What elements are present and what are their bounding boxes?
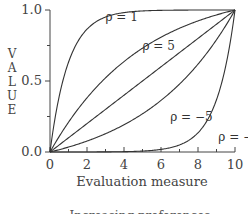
curves: [50, 10, 235, 152]
series-label: ρ = 1: [106, 10, 138, 24]
y-tick-label: 1.0: [21, 2, 42, 17]
y-axis-title-letter: L: [8, 75, 16, 89]
x-tick-label: 2: [83, 157, 91, 172]
y-axis-title-letter: V: [7, 47, 17, 61]
x-tick-label: 8: [194, 157, 202, 172]
y-axis-title: VALUE: [7, 47, 17, 117]
series-label: ρ = −5: [170, 110, 212, 124]
footer-note: Increasing preferences: [69, 209, 210, 214]
y-axis-title-letter: U: [7, 89, 17, 103]
y-axis-title-letter: A: [7, 61, 17, 75]
series-label: ρ = 5: [143, 39, 175, 53]
y-axis-title-letter: E: [8, 103, 17, 117]
x-axis-title: Evaluation measure: [76, 174, 208, 189]
series-label: ρ = −1: [218, 130, 248, 144]
x-tick-label: 6: [157, 157, 165, 172]
x-tick-label: 0: [46, 157, 54, 172]
x-tick-label: 4: [120, 157, 128, 172]
chart: 0.00.51.00246810 ρ = 1ρ = 5ρ = −5ρ = −1 …: [0, 0, 248, 214]
y-tick-label: 0.0: [21, 144, 42, 159]
y-tick-label: 0.5: [21, 73, 42, 88]
x-tick-label: 10: [227, 157, 244, 172]
axes: 0.00.51.00246810: [21, 2, 243, 172]
series-line-linear: [50, 10, 235, 152]
